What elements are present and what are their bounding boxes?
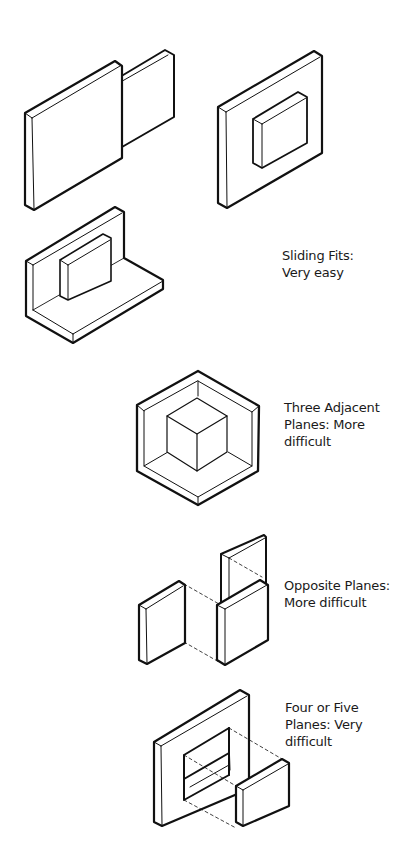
label-line: Four or Five (285, 699, 362, 716)
label-line: Very easy (282, 264, 354, 281)
plate-with-raised-block-figure (218, 51, 322, 208)
frame-with-opening-figure (154, 690, 289, 828)
two-offset-plates-figure (25, 50, 174, 210)
label-four-or-five-planes: Four or Five Planes: Very difficult (285, 699, 362, 750)
label-line: Planes: More (284, 416, 380, 433)
label-line: difficult (284, 433, 380, 450)
label-sliding-fits: Sliding Fits: Very easy (282, 247, 354, 281)
l-bracket-with-block-figure (26, 207, 163, 343)
label-line: Three Adjacent (284, 399, 380, 416)
label-line: Sliding Fits: (282, 247, 354, 264)
label-opposite-planes: Opposite Planes: More difficult (284, 577, 390, 611)
label-line: Opposite Planes: (284, 577, 390, 594)
label-line: More difficult (284, 594, 390, 611)
opposite-plates-figure (139, 535, 268, 665)
cube-in-corner-figure (137, 371, 259, 505)
label-line: Planes: Very (285, 716, 362, 733)
label-line: difficult (285, 733, 362, 750)
label-three-adjacent-planes: Three Adjacent Planes: More difficult (284, 399, 380, 450)
